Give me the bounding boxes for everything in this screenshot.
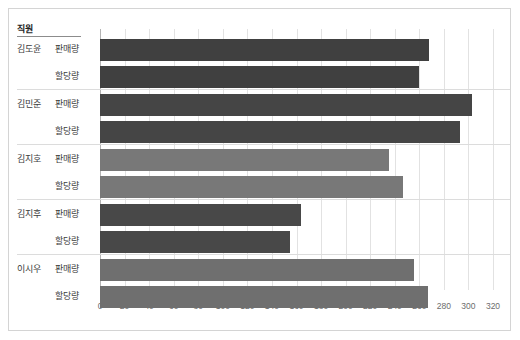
category-label: 이시우 bbox=[17, 265, 41, 274]
gridline-320 bbox=[493, 29, 494, 290]
category-label: 김지후 bbox=[17, 210, 41, 219]
bar bbox=[100, 176, 403, 198]
series-label: 할당량 bbox=[55, 72, 79, 81]
series-label: 판매량 bbox=[55, 100, 79, 109]
series-label: 할당량 bbox=[55, 292, 79, 301]
axis-header-label: 직원 bbox=[17, 22, 33, 35]
gridline-300 bbox=[468, 29, 469, 290]
gridline-260 bbox=[419, 29, 420, 290]
series-label: 할당량 bbox=[55, 127, 79, 136]
bar bbox=[100, 121, 460, 143]
series-label: 할당량 bbox=[55, 182, 79, 191]
bar-chart-panel: 직원 김도윤판매량할당량김민준판매량할당량김지호판매량할당량김지후판매량할당량이… bbox=[8, 8, 511, 331]
x-axis-tick-label: 300 bbox=[461, 302, 475, 311]
bar bbox=[100, 259, 414, 281]
bar bbox=[100, 204, 301, 226]
series-label: 판매량 bbox=[55, 45, 79, 54]
series-label: 판매량 bbox=[55, 265, 79, 274]
x-axis-tick-label: 320 bbox=[486, 302, 500, 311]
bar bbox=[100, 231, 290, 253]
series-label: 판매량 bbox=[55, 155, 79, 164]
bar bbox=[100, 94, 472, 116]
category-label: 김민준 bbox=[17, 100, 41, 109]
group-separator bbox=[17, 254, 510, 255]
group-separator bbox=[17, 89, 510, 90]
bar bbox=[100, 286, 428, 308]
bar bbox=[100, 66, 419, 88]
category-label: 김도윤 bbox=[17, 45, 41, 54]
series-label: 판매량 bbox=[55, 210, 79, 219]
category-label: 김지호 bbox=[17, 155, 41, 164]
axis-header-cell: 직원 bbox=[17, 21, 81, 37]
x-axis-tick-label: 280 bbox=[437, 302, 451, 311]
bar bbox=[100, 39, 429, 61]
group-separator bbox=[17, 199, 510, 200]
category-label-column: 직원 김도윤판매량할당량김민준판매량할당량김지호판매량할당량김지후판매량할당량이… bbox=[9, 9, 91, 330]
plot-area: 0204060801001201401601802002202402602803… bbox=[91, 9, 510, 330]
group-separator bbox=[17, 144, 510, 145]
bar bbox=[100, 149, 389, 171]
gridline-280 bbox=[444, 29, 445, 290]
series-label: 할당량 bbox=[55, 237, 79, 246]
